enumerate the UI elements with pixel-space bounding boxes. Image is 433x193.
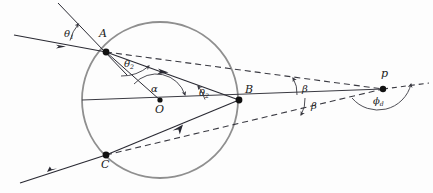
optical-axis [82, 89, 383, 100]
point-label-B: B [245, 84, 253, 95]
angle-label-theta1: θ1 [64, 29, 74, 40]
point-label-C: C [101, 159, 109, 170]
incident-ray-arrowhead [56, 45, 66, 49]
angle-label-phi-d: ϕd [373, 96, 384, 107]
angle-label-beta-lower: β [311, 101, 317, 112]
point-marker-O [157, 97, 162, 102]
internal-ray-B-to-C [106, 100, 239, 155]
point-marker-A [103, 49, 110, 56]
angle-label-alpha: α [151, 84, 158, 95]
exit-ray-from-C [20, 155, 106, 183]
angle-arc-beta-lower [301, 98, 305, 115]
point-marker-B [236, 97, 243, 104]
angle-label-theta2-at-A: θ2 [124, 59, 134, 70]
point-label-p: p [381, 68, 388, 79]
point-marker-p [380, 86, 386, 92]
point-label-A: A [99, 28, 107, 39]
dashed-extension-C-to-p [106, 89, 383, 155]
dashed-ray-beyond-p [383, 83, 429, 89]
angle-label-theta2-at-B: θ2 [199, 88, 209, 99]
point-label-O: O [155, 104, 164, 115]
angle-label-beta-upper: β [302, 84, 308, 95]
incident-ray [14, 35, 106, 52]
